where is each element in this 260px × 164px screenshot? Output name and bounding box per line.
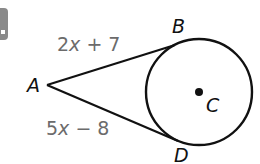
ad-coef: 5 [46,117,58,139]
ad-var: x [58,117,69,139]
ab-var: x [69,33,80,55]
point-c-label: C [206,96,219,115]
segment-ad-length-label: 5x − 8 [46,119,109,138]
tangent-segments-diagram: 2x + 7 5x − 8 A B C D [0,0,260,164]
ab-rest: + 7 [80,33,120,55]
segment-ab-length-label: 2x + 7 [57,35,120,54]
point-b-label: B [172,17,185,36]
point-d-label: D [174,146,189,164]
ab-coef: 2 [57,33,69,55]
center-point-c [195,88,203,96]
ad-rest: − 8 [69,117,109,139]
point-a-label: A [27,76,40,95]
